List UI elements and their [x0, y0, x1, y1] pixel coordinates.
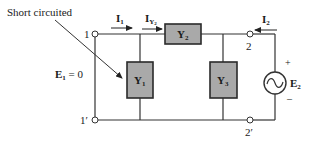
node-1-label: 1 — [84, 28, 90, 40]
terminal-2-prime — [247, 117, 253, 123]
terminal-1-prime — [92, 117, 98, 123]
admittance-y2: Y2 — [165, 24, 201, 44]
voltage-source-e2: + – E2 — [264, 57, 301, 104]
terminal-2 — [247, 31, 253, 37]
svg-text:IY2: IY2 — [145, 12, 157, 26]
plus-sign: + — [285, 57, 291, 68]
admittance-y1: Y1 — [127, 62, 153, 98]
circuit-diagram: Short circuited 1 1′ 2 2′ Y1 Y2 — [0, 0, 317, 144]
admittance-y3: Y3 — [210, 62, 237, 98]
node-1-prime-label: 1′ — [80, 114, 88, 126]
node-2-prime-label: 2′ — [245, 126, 253, 138]
svg-text:I1: I1 — [116, 12, 124, 26]
current-i2: I2 — [255, 13, 277, 30]
e1-label: E1 = 0 — [55, 68, 84, 82]
current-i1: I1 — [111, 12, 132, 28]
e2-label: E2 — [290, 77, 301, 91]
svg-text:I2: I2 — [262, 13, 270, 27]
current-iy2: IY2 — [142, 12, 162, 29]
node-2-label: 2 — [246, 40, 252, 52]
terminal-1 — [92, 31, 98, 37]
short-circuited-annotation: Short circuited — [7, 6, 73, 18]
minus-sign: – — [286, 93, 293, 104]
